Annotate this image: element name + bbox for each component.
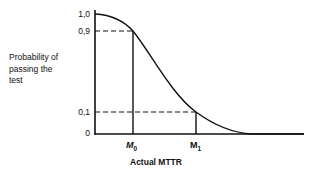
- x-axis-label: Actual MTTR: [130, 157, 182, 167]
- oc-curve: [95, 14, 304, 134]
- x-tick-m1: M1: [190, 140, 201, 152]
- chart-plot: [0, 0, 318, 173]
- x-tick-m0: M0: [126, 140, 137, 152]
